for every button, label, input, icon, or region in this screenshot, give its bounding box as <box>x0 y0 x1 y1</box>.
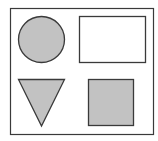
gray-circle <box>19 17 65 63</box>
diagram-svg <box>0 0 158 141</box>
white-rectangle <box>80 17 146 63</box>
gray-square <box>89 80 134 126</box>
shapes-diagram <box>0 0 158 141</box>
